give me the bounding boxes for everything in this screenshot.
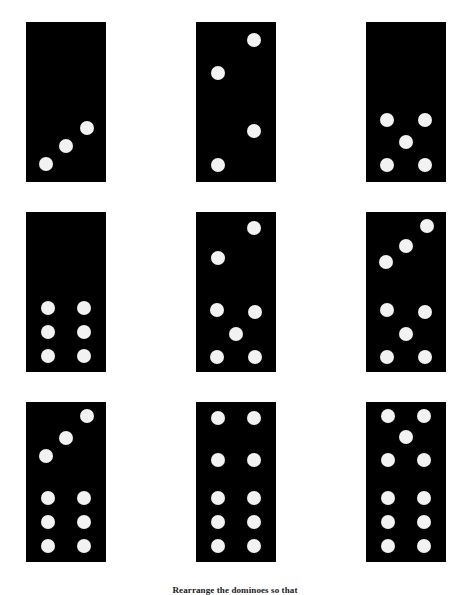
pip-dot	[248, 305, 262, 319]
domino-tile[interactable]	[26, 402, 106, 562]
domino-half-top	[196, 22, 276, 102]
domino-half-bottom	[26, 292, 106, 372]
pip-dot	[399, 430, 413, 444]
pip-dot	[211, 491, 225, 505]
domino-half-top	[366, 402, 446, 482]
pip-dot	[418, 113, 432, 127]
pip-dot	[381, 453, 395, 467]
domino-grid	[0, 0, 470, 580]
pip-dot	[418, 305, 432, 319]
pip-dot	[399, 327, 413, 341]
pip-dot	[211, 539, 225, 553]
pip-dot	[41, 491, 55, 505]
pip-dot	[380, 113, 394, 127]
domino-tile[interactable]	[196, 402, 276, 562]
pip-dot	[381, 539, 395, 553]
pip-dot	[59, 431, 73, 445]
pip-dot	[381, 515, 395, 529]
domino-half-top	[26, 212, 106, 292]
pip-dot	[77, 301, 91, 315]
pip-dot	[41, 325, 55, 339]
domino-half-top	[366, 212, 446, 292]
pip-dot	[41, 515, 55, 529]
pip-dot	[417, 515, 431, 529]
pip-dot	[39, 449, 53, 463]
pip-dot	[77, 539, 91, 553]
pip-dot	[418, 350, 432, 364]
pip-dot	[77, 515, 91, 529]
domino-tile[interactable]	[366, 212, 446, 372]
pip-dot	[210, 303, 224, 317]
domino-half-bottom	[26, 102, 106, 182]
domino-half-bottom	[366, 292, 446, 372]
pip-dot	[399, 239, 413, 253]
domino-tile[interactable]	[366, 22, 446, 182]
pip-dot	[380, 158, 394, 172]
pip-dot	[77, 349, 91, 363]
pip-dot	[417, 539, 431, 553]
pip-dot	[381, 409, 395, 423]
domino-half-top	[196, 402, 276, 482]
pip-dot	[211, 66, 225, 80]
pip-dot	[247, 453, 261, 467]
pip-dot	[211, 158, 225, 172]
domino-tile[interactable]	[26, 22, 106, 182]
pip-dot	[418, 158, 432, 172]
pip-dot	[80, 121, 94, 135]
pip-dot	[59, 139, 73, 153]
pip-dot	[41, 301, 55, 315]
pip-dot	[417, 491, 431, 505]
pip-dot	[248, 350, 262, 364]
pip-dot	[247, 539, 261, 553]
puzzle-caption: Rearrange the dominoes so that	[0, 585, 470, 595]
domino-tile[interactable]	[26, 212, 106, 372]
pip-dot	[229, 327, 243, 341]
pip-dot	[379, 255, 393, 269]
pip-dot	[247, 33, 261, 47]
pip-dot	[247, 515, 261, 529]
domino-tile[interactable]	[366, 402, 446, 562]
pip-dot	[247, 491, 261, 505]
pip-dot	[247, 221, 261, 235]
puzzle-page: Rearrange the dominoes so that	[0, 0, 470, 595]
domino-half-bottom	[196, 292, 276, 372]
domino-half-top	[26, 22, 106, 102]
pip-dot	[211, 515, 225, 529]
pip-dot	[399, 135, 413, 149]
pip-dot	[77, 325, 91, 339]
pip-dot	[211, 411, 225, 425]
pip-dot	[210, 350, 224, 364]
domino-half-top	[26, 402, 106, 482]
pip-dot	[80, 409, 94, 423]
domino-tile[interactable]	[196, 22, 276, 182]
domino-half-bottom	[26, 482, 106, 562]
pip-dot	[41, 539, 55, 553]
domino-half-bottom	[366, 102, 446, 182]
pip-dot	[247, 124, 261, 138]
pip-dot	[247, 411, 261, 425]
pip-dot	[39, 157, 53, 171]
domino-half-bottom	[366, 482, 446, 562]
domino-half-bottom	[196, 482, 276, 562]
pip-dot	[380, 350, 394, 364]
pip-dot	[417, 409, 431, 423]
pip-dot	[417, 453, 431, 467]
domino-tile[interactable]	[196, 212, 276, 372]
pip-dot	[77, 491, 91, 505]
pip-dot	[381, 491, 395, 505]
domino-half-top	[366, 22, 446, 102]
domino-half-top	[196, 212, 276, 292]
domino-half-bottom	[196, 102, 276, 182]
pip-dot	[211, 453, 225, 467]
pip-dot	[41, 349, 55, 363]
pip-dot	[420, 219, 434, 233]
pip-dot	[380, 303, 394, 317]
pip-dot	[211, 251, 225, 265]
